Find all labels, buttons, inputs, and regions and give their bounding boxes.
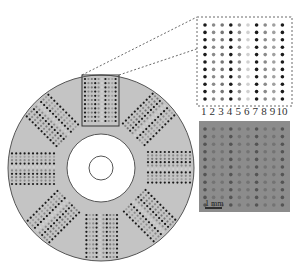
scale-bar-label: 1 mm — [205, 199, 223, 208]
disk-figure — [0, 0, 305, 269]
inset-box — [197, 17, 292, 106]
column-label: 8 — [261, 105, 267, 117]
column-label: 2 — [210, 105, 216, 117]
column-label: 5 — [235, 105, 241, 117]
column-label: 6 — [244, 105, 250, 117]
leader-line-top — [82, 17, 197, 75]
column-label: 10 — [276, 105, 287, 117]
center-hole — [89, 156, 113, 180]
column-label: 9 — [270, 105, 276, 117]
column-label: 4 — [227, 105, 233, 117]
disk — [8, 75, 194, 261]
column-label: 1 — [201, 105, 207, 117]
column-label: 3 — [218, 105, 224, 117]
column-label: 7 — [253, 105, 259, 117]
